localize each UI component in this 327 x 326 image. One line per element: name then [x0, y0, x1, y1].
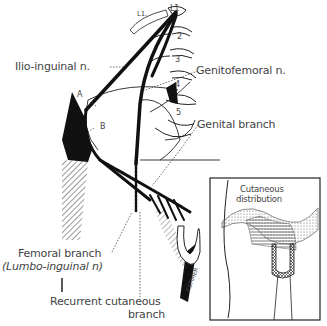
label-vertebra-5: 5	[176, 108, 181, 117]
label-vertebra-2: 2	[177, 32, 182, 41]
inset-title-line1: Cutaneous	[240, 184, 284, 194]
label-lumbo-inguinal: (Lumbo-inguinal n)	[2, 260, 103, 273]
label-recurrent-cutaneous: Recurrent cutaneous	[50, 295, 161, 308]
label-point-a: A	[77, 90, 82, 99]
label-l1-right: L1	[170, 4, 179, 13]
label-ilioinguinal: Ilio-inguinal n.	[15, 60, 90, 73]
thigh-hatch	[62, 160, 88, 240]
anatomical-illustration	[0, 0, 327, 326]
label-vertebra-4: 4	[175, 80, 180, 89]
label-genital-branch: Genital branch	[197, 118, 275, 131]
label-point-b: B	[100, 122, 105, 131]
label-femoral-branch: Femoral branch	[18, 247, 101, 260]
label-vertebra-3: 3	[175, 55, 180, 64]
nerves	[85, 12, 190, 220]
label-genitofemoral: Genitofemoral n.	[196, 64, 286, 77]
label-recurrent-branch: branch	[128, 308, 165, 321]
label-l1-left: L1.	[137, 10, 147, 18]
inset-title-line2: distribution	[236, 194, 282, 204]
